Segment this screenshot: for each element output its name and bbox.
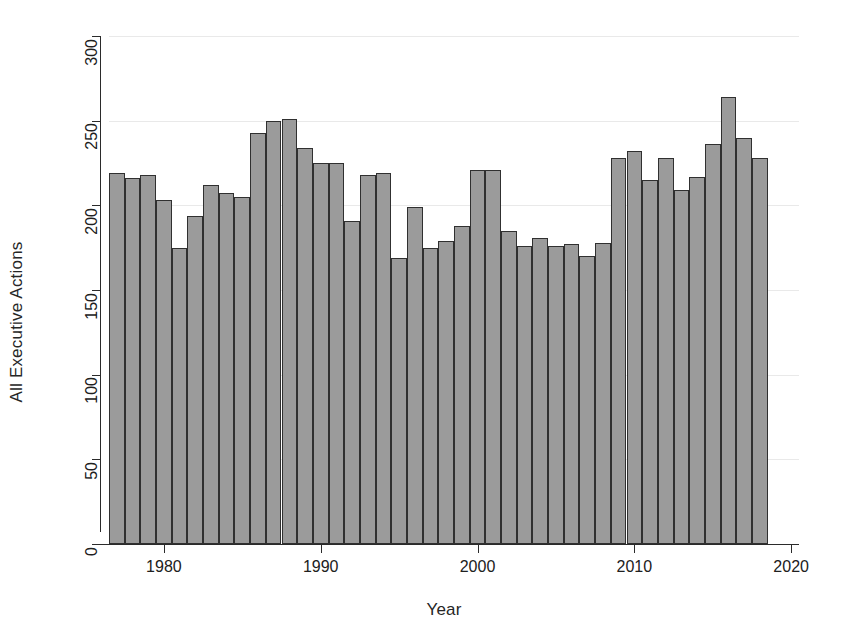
bar-1999[interactable]: [454, 226, 470, 544]
bar-1989[interactable]: [297, 148, 313, 544]
bar-2008[interactable]: [595, 243, 611, 544]
bar-1994[interactable]: [376, 173, 392, 544]
plot-area: 050100150200250300 19801990200020102020: [109, 36, 799, 532]
x-tick-label-2020: 2020: [773, 558, 809, 576]
bar-2003[interactable]: [517, 246, 533, 544]
bar-2014[interactable]: [689, 177, 705, 544]
bar-1979[interactable]: [140, 175, 156, 544]
bar-2010[interactable]: [627, 151, 643, 544]
y-tick-250: 250: [92, 121, 100, 122]
bar-2012[interactable]: [658, 158, 674, 544]
bar-2004[interactable]: [532, 238, 548, 544]
x-tick-label-2010: 2010: [617, 558, 653, 576]
bar-1988[interactable]: [282, 119, 298, 544]
bar-1977[interactable]: [109, 173, 125, 544]
bar-1982[interactable]: [187, 216, 203, 545]
x-axis-label: Year: [109, 600, 779, 620]
y-tick-label-300: 300: [83, 37, 101, 66]
bar-2013[interactable]: [674, 190, 690, 544]
bar-1991[interactable]: [329, 163, 345, 544]
bar-2011[interactable]: [642, 180, 658, 544]
bar-1995[interactable]: [391, 258, 407, 544]
bar-1998[interactable]: [438, 241, 454, 544]
x-axis-spine: [100, 544, 799, 545]
y-tick-50: 50: [92, 459, 100, 460]
y-tick-label-0: 0: [83, 545, 101, 556]
chart-figure: All Executive Actions 050100150200250300…: [0, 0, 846, 644]
bar-1978[interactable]: [125, 178, 141, 544]
y-axis-label: All Executive Actions: [0, 0, 34, 644]
x-tick-2020: [791, 544, 792, 553]
y-tick-label-100: 100: [83, 375, 101, 404]
x-tick-2010: [634, 544, 635, 553]
y-tick-label-150: 150: [83, 291, 101, 320]
x-tick-label-1980: 1980: [146, 558, 182, 576]
bar-1992[interactable]: [344, 221, 360, 544]
bar-2015[interactable]: [705, 144, 721, 544]
x-tick-2000: [478, 544, 479, 553]
bar-2001[interactable]: [485, 170, 501, 544]
y-tick-0: 0: [92, 544, 100, 545]
bar-1984[interactable]: [219, 193, 235, 544]
bar-1993[interactable]: [360, 175, 376, 544]
bar-2005[interactable]: [548, 246, 564, 544]
bar-1981[interactable]: [172, 248, 188, 544]
y-tick-label-200: 200: [83, 206, 101, 235]
bar-1986[interactable]: [250, 133, 266, 544]
bar-2007[interactable]: [579, 256, 595, 544]
bar-1983[interactable]: [203, 185, 219, 544]
y-tick-150: 150: [92, 290, 100, 291]
y-axis-spine: [100, 36, 101, 532]
x-tick-label-2000: 2000: [460, 558, 496, 576]
bar-2017[interactable]: [736, 138, 752, 544]
bar-2009[interactable]: [611, 158, 627, 544]
bar-2000[interactable]: [470, 170, 486, 544]
bar-1985[interactable]: [234, 197, 250, 544]
y-tick-200: 200: [92, 205, 100, 206]
bar-1997[interactable]: [423, 248, 439, 544]
bar-1996[interactable]: [407, 207, 423, 544]
x-tick-label-1990: 1990: [303, 558, 339, 576]
bars-layer: [109, 36, 799, 544]
y-tick-100: 100: [92, 375, 100, 376]
bar-1990[interactable]: [313, 163, 329, 544]
bar-2002[interactable]: [501, 231, 517, 544]
bar-2016[interactable]: [721, 97, 737, 544]
x-tick-1990: [321, 544, 322, 553]
bar-2018[interactable]: [752, 158, 768, 544]
y-tick-label-50: 50: [83, 460, 101, 480]
x-tick-1980: [164, 544, 165, 553]
bar-2006[interactable]: [564, 244, 580, 544]
y-tick-300: 300: [92, 36, 100, 37]
bar-1987[interactable]: [266, 121, 282, 544]
y-tick-label-250: 250: [83, 121, 101, 150]
bar-1980[interactable]: [156, 200, 172, 544]
